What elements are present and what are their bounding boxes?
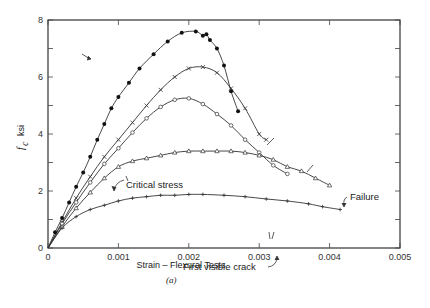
y-axis-label-sub: c bbox=[19, 141, 30, 146]
data-point bbox=[88, 155, 92, 159]
data-markers bbox=[53, 29, 342, 234]
x-tick-label: 0.001 bbox=[107, 252, 130, 262]
x-tick-label: 0 bbox=[45, 252, 50, 262]
crack-marks bbox=[267, 138, 313, 239]
data-point bbox=[145, 117, 149, 121]
data-point bbox=[131, 131, 135, 135]
y-tick-label: 4 bbox=[38, 129, 43, 139]
data-point bbox=[222, 193, 226, 197]
data-point bbox=[166, 39, 170, 43]
data-point bbox=[194, 29, 198, 33]
data-point bbox=[215, 71, 219, 75]
data-point bbox=[102, 155, 106, 159]
data-point bbox=[173, 98, 177, 102]
data-point bbox=[74, 185, 78, 189]
data-point bbox=[264, 138, 268, 142]
data-point bbox=[95, 138, 99, 142]
data-point bbox=[81, 170, 85, 174]
y-tick-label: 2 bbox=[38, 186, 43, 196]
data-point bbox=[116, 138, 120, 142]
data-point bbox=[117, 146, 121, 150]
chart: 00.0010.0020.0030.0040.005 02468 Critica… bbox=[0, 0, 430, 308]
data-point bbox=[138, 66, 142, 70]
data-point bbox=[159, 105, 163, 109]
y-axis-label: f c ksi bbox=[15, 125, 30, 150]
data-point bbox=[286, 199, 290, 203]
data-point bbox=[109, 106, 113, 110]
data-point bbox=[204, 32, 208, 36]
figure-caption: (a) bbox=[166, 275, 177, 285]
data-point bbox=[159, 193, 163, 197]
data-point bbox=[103, 162, 107, 166]
data-point bbox=[215, 47, 219, 51]
data-point bbox=[74, 196, 78, 200]
data-point bbox=[286, 172, 290, 176]
annotation-critical-stress: Critical stress bbox=[126, 179, 183, 190]
data-point bbox=[173, 75, 177, 79]
data-point bbox=[117, 199, 121, 203]
data-point bbox=[243, 138, 247, 142]
data-point bbox=[201, 34, 205, 38]
data-point bbox=[60, 216, 64, 220]
data-point bbox=[180, 31, 184, 35]
data-point bbox=[208, 38, 212, 42]
data-point bbox=[243, 195, 247, 199]
data-point bbox=[130, 121, 134, 125]
data-point bbox=[67, 200, 71, 204]
plot-frame bbox=[48, 20, 400, 248]
data-point bbox=[152, 52, 156, 56]
data-point bbox=[116, 165, 120, 169]
y-axis-label-unit: ksi bbox=[16, 125, 26, 136]
y-tick-label: 0 bbox=[38, 243, 43, 253]
x-axis-label: Strain – Flexural Tests bbox=[137, 260, 226, 270]
y-tick-labels: 02468 bbox=[38, 15, 43, 253]
x-tick-label: 0.004 bbox=[318, 252, 341, 262]
data-point bbox=[131, 196, 135, 200]
data-point bbox=[222, 64, 226, 68]
data-point bbox=[116, 95, 120, 99]
series-line-2 bbox=[48, 67, 266, 248]
data-point bbox=[338, 208, 342, 212]
data-point bbox=[257, 132, 261, 136]
data-point bbox=[215, 112, 219, 116]
data-point bbox=[243, 106, 247, 110]
data-point bbox=[271, 164, 275, 168]
data-point bbox=[321, 205, 325, 209]
data-point bbox=[145, 195, 149, 199]
data-point bbox=[236, 109, 240, 113]
data-curves bbox=[48, 31, 340, 248]
data-point bbox=[88, 208, 92, 212]
data-point bbox=[145, 104, 149, 108]
axis-ticks bbox=[48, 20, 400, 248]
data-point bbox=[102, 122, 106, 126]
data-point bbox=[187, 97, 191, 101]
series-line-5 bbox=[48, 194, 340, 248]
data-point bbox=[88, 175, 92, 179]
data-point bbox=[187, 193, 191, 197]
annotation-failure: Failure bbox=[350, 191, 379, 202]
data-point bbox=[159, 88, 163, 92]
y-tick-label: 6 bbox=[38, 72, 43, 82]
data-point bbox=[307, 202, 311, 206]
data-point bbox=[201, 102, 205, 106]
data-point bbox=[103, 203, 107, 207]
data-point bbox=[229, 124, 233, 128]
data-point bbox=[264, 197, 268, 201]
data-point bbox=[173, 193, 177, 197]
data-point bbox=[201, 193, 205, 197]
data-point bbox=[74, 201, 78, 205]
y-tick-label: 8 bbox=[38, 15, 43, 25]
data-point bbox=[53, 230, 57, 234]
x-tick-label: 0.005 bbox=[389, 252, 412, 262]
data-point bbox=[127, 81, 131, 85]
data-point bbox=[88, 181, 92, 185]
